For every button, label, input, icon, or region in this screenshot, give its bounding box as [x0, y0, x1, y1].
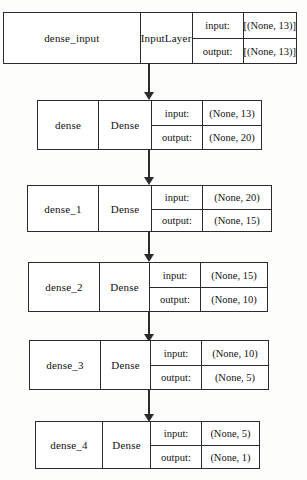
- layer-output-row: output: (None, 10): [150, 287, 267, 311]
- layer-node-dense_1[interactable]: dense_1 Dense input: (None, 20) output: …: [27, 185, 272, 232]
- layer-output-row: output: (None, 20): [152, 125, 261, 149]
- input-label: input:: [193, 13, 243, 38]
- layer-io-table: input: (None, 15) output: (None, 10): [149, 263, 267, 311]
- layer-io-table: input: [(None, 13)] output: [(None, 13)]: [192, 13, 296, 63]
- edge-line: [148, 64, 150, 92]
- input-label: input:: [151, 341, 201, 365]
- layer-type: InputLayer: [140, 13, 192, 63]
- edge-dense_3-to-dense_4: [148, 390, 150, 422]
- layer-name: dense_2: [29, 263, 99, 311]
- layer-type: Dense: [98, 101, 151, 149]
- output-shape-value: (None, 5): [201, 366, 268, 389]
- layer-name: dense: [38, 101, 98, 149]
- layer-name: dense_4: [36, 422, 102, 468]
- input-shape-value: (None, 5): [201, 422, 259, 445]
- layer-output-row: output: [(None, 13)]: [193, 38, 296, 63]
- edge-line: [148, 390, 150, 414]
- output-label: output:: [151, 446, 201, 468]
- output-shape-value: [(None, 13)]: [243, 39, 296, 63]
- layer-input-row: input: [(None, 13)]: [193, 13, 296, 38]
- model-architecture-diagram: dense_input InputLayer input: [(None, 13…: [0, 0, 307, 480]
- layer-node-dense[interactable]: dense Dense input: (None, 13) output: (N…: [37, 100, 262, 150]
- layer-type: Dense: [99, 263, 149, 311]
- layer-name: dense_input: [4, 13, 140, 63]
- layer-output-row: output: (None, 1): [151, 445, 259, 468]
- layer-node-dense_input[interactable]: dense_input InputLayer input: [(None, 13…: [3, 12, 297, 64]
- input-shape-value: (None, 10): [201, 341, 268, 365]
- arrowhead-icon: [144, 177, 154, 185]
- edge-dense_1-to-dense_2: [148, 232, 150, 262]
- layer-input-row: input: (None, 5): [151, 422, 259, 445]
- edge-dense-to-dense_1: [148, 150, 150, 185]
- edge-line: [148, 312, 150, 334]
- layer-output-row: output: (None, 5): [151, 365, 268, 389]
- layer-io-table: input: (None, 10) output: (None, 5): [150, 341, 268, 389]
- output-label: output:: [152, 210, 202, 232]
- layer-node-dense_3[interactable]: dense_3 Dense input: (None, 10) output: …: [29, 340, 269, 390]
- output-shape-value: (None, 1): [201, 446, 259, 468]
- output-shape-value: (None, 20): [202, 126, 261, 149]
- input-label: input:: [151, 422, 201, 445]
- input-shape-value: (None, 15): [200, 263, 267, 287]
- layer-name: dense_1: [28, 186, 98, 231]
- arrowhead-icon: [144, 92, 154, 100]
- input-label: input:: [152, 101, 202, 125]
- edge-line: [148, 232, 150, 254]
- arrowhead-icon: [144, 254, 154, 262]
- input-label: input:: [150, 263, 200, 287]
- layer-io-table: input: (None, 20) output: (None, 15): [151, 186, 271, 231]
- output-label: output:: [193, 39, 243, 63]
- output-shape-value: (None, 15): [202, 210, 271, 232]
- output-label: output:: [150, 288, 200, 311]
- input-label: input:: [152, 186, 202, 209]
- layer-io-table: input: (None, 13) output: (None, 20): [151, 101, 261, 149]
- layer-node-dense_4[interactable]: dense_4 Dense input: (None, 5) output: (…: [35, 421, 260, 469]
- output-label: output:: [152, 126, 202, 149]
- layer-output-row: output: (None, 15): [152, 209, 271, 232]
- layer-input-row: input: (None, 20): [152, 186, 271, 209]
- layer-io-table: input: (None, 5) output: (None, 1): [150, 422, 259, 468]
- input-shape-value: (None, 13): [202, 101, 261, 125]
- edge-dense_2-to-dense_3: [148, 312, 150, 342]
- edge-line: [148, 150, 150, 177]
- layer-input-row: input: (None, 15): [150, 263, 267, 287]
- input-shape-value: (None, 20): [202, 186, 271, 209]
- output-label: output:: [151, 366, 201, 389]
- layer-type: Dense: [100, 341, 150, 389]
- input-shape-value: [(None, 13)]: [243, 13, 296, 38]
- layer-type: Dense: [102, 422, 150, 468]
- layer-name: dense_3: [30, 341, 100, 389]
- layer-input-row: input: (None, 13): [152, 101, 261, 125]
- layer-input-row: input: (None, 10): [151, 341, 268, 365]
- layer-type: Dense: [98, 186, 151, 231]
- edge-dense_input-to-dense: [148, 64, 150, 100]
- layer-node-dense_2[interactable]: dense_2 Dense input: (None, 15) output: …: [28, 262, 268, 312]
- output-shape-value: (None, 10): [200, 288, 267, 311]
